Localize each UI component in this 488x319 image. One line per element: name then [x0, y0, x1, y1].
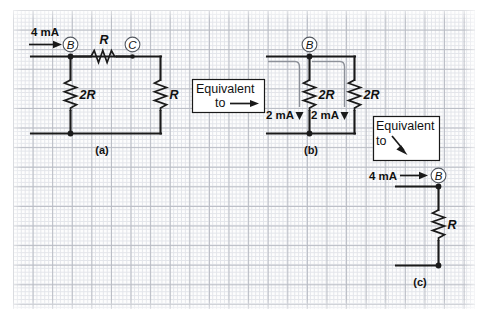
- panel-c-resistor-label: R: [448, 218, 457, 232]
- panel-c: 4 mA B R (c): [369, 168, 457, 288]
- panel-b-right-resistor-label: 2R: [363, 88, 380, 102]
- equivalence-box-2-line1: Equivalent: [376, 119, 435, 133]
- figure-root: 4 mA B C R 2R R (a) Equivalent to: [0, 0, 488, 319]
- panel-c-resistor-symbol: [433, 210, 445, 241]
- panel-c-current-label: 4 mA: [369, 170, 397, 182]
- panel-a-right-resistor-label: R: [170, 88, 179, 102]
- panel-c-node-b-label: B: [435, 170, 443, 182]
- panel-a-node-c-dot: [130, 54, 135, 59]
- panel-a: 4 mA B C R 2R R (a): [29, 26, 179, 156]
- equivalence-box-1-line2: to: [215, 96, 225, 110]
- circuit-diagram-svg: 4 mA B C R 2R R (a) Equivalent to: [0, 0, 488, 319]
- panel-a-caption: (a): [95, 144, 109, 156]
- panel-b-right-current-arrowhead: [341, 112, 349, 120]
- panel-b-node-b-label: B: [306, 39, 314, 51]
- panel-a-node-b-dot: [68, 54, 74, 60]
- panel-a-node-c-label: C: [128, 39, 137, 51]
- equivalence-box-1-line1: Equivalent: [196, 82, 255, 96]
- panel-b-left-current-arrowhead: [296, 112, 304, 120]
- panel-c-node-b-dot: [436, 184, 442, 190]
- equivalence-box-2-line2: to: [376, 134, 386, 148]
- panel-a-series-resistor-label: R: [99, 33, 108, 47]
- panel-a-current-label: 4 mA: [31, 26, 59, 38]
- panel-b-left-current-leader: [268, 62, 300, 108]
- panel-c-bottom-dot: [436, 263, 442, 269]
- panel-b-caption: (b): [304, 144, 318, 156]
- panel-a-bottom-left-dot: [68, 131, 74, 137]
- panel-b: B 2R 2R 2 mA 2 mA (b): [266, 37, 379, 156]
- panel-b-left-resistor-label: 2R: [318, 88, 335, 102]
- equivalence-box-2: Equivalent to: [374, 117, 440, 161]
- panel-a-node-b-label: B: [67, 39, 75, 51]
- panel-a-current-arrow: [29, 41, 62, 48]
- panel-a-right-resistor-symbol: [155, 80, 167, 111]
- panel-c-caption: (c): [413, 276, 427, 288]
- panel-b-right-current-label: 2 mA: [311, 109, 339, 121]
- equivalence-box-1: Equivalent to: [193, 80, 265, 113]
- panel-c-current-arrow: [400, 172, 428, 179]
- panel-b-right-current-leader: [340, 62, 345, 108]
- panel-a-left-resistor-symbol: [65, 80, 77, 111]
- panel-a-left-resistor-label: 2R: [79, 88, 96, 102]
- panel-b-left-current-label: 2 mA: [266, 109, 294, 121]
- panel-b-bottom-dot: [307, 131, 313, 137]
- panel-b-right-resistor-symbol: [349, 80, 361, 111]
- panel-b-left-resistor-symbol: [304, 80, 316, 111]
- panel-b-node-b-dot: [307, 54, 313, 60]
